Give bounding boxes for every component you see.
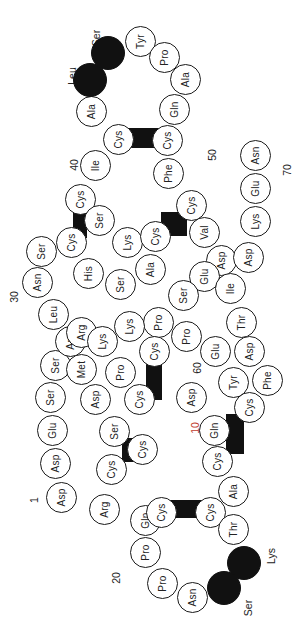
residue-ala: Ala	[76, 96, 107, 127]
residue-label: Pro	[115, 364, 126, 380]
residue-label: Phe	[262, 371, 273, 390]
residue-label: Ile	[90, 160, 101, 171]
residue-ser: Ser	[84, 205, 115, 236]
residue-ser: Ser	[105, 269, 136, 300]
residue-label: Ala	[145, 262, 156, 277]
residue-label: Asn	[250, 146, 261, 164]
residue-asp: Asp	[176, 382, 207, 413]
residue-label: Gln	[169, 101, 180, 117]
residue-pro: Pro	[147, 568, 178, 599]
residue-ala: Ala	[170, 64, 201, 95]
residue-lys: Lys	[112, 227, 143, 258]
residue-lys: Lys	[114, 311, 145, 342]
residue-label: Asp	[244, 342, 255, 360]
residue-cys: Cys	[127, 434, 158, 465]
position-number-label: 20	[110, 572, 122, 584]
residue-glu: Glu	[37, 415, 68, 446]
residue-label: Cys	[150, 227, 161, 245]
residue-ser: Ser	[26, 236, 57, 267]
residue-ser: Ser	[35, 382, 66, 413]
residue-label: Ile	[225, 283, 236, 294]
residue-asp: Asp	[234, 336, 265, 367]
residue-label: Ser	[109, 423, 120, 439]
residue-label: Asp	[50, 454, 61, 472]
residue-label: Asp	[90, 390, 101, 408]
position-number-label: 30	[8, 291, 20, 303]
position-number-label: 70	[281, 164, 293, 176]
residue-label: Asp	[186, 388, 197, 406]
residue-label: Ser	[36, 243, 47, 259]
residue-label: Ser	[45, 389, 56, 405]
residue-label: Glu	[199, 268, 210, 284]
residue-cys: Cys	[124, 384, 155, 415]
residue-asn: Asn	[177, 582, 208, 613]
residue-pro: Pro	[171, 321, 202, 352]
residue-label: Asn	[32, 273, 43, 291]
residue-pro: Pro	[143, 307, 174, 338]
residue-label: Phe	[163, 164, 174, 183]
residue-pro: Pro	[105, 357, 136, 388]
residue-label: Cys	[75, 190, 86, 208]
position-number-label: 60	[191, 362, 203, 374]
residue-thr: Thr	[226, 307, 257, 338]
residue-ser	[207, 571, 241, 605]
residue-ser: Ser	[99, 416, 130, 447]
residue-gln: Gln	[159, 94, 190, 125]
residue-label: Cys	[149, 342, 160, 360]
residue-ile: Ile	[80, 150, 111, 181]
residue-label: Tyr	[135, 34, 146, 49]
residue-label: Glu	[250, 180, 261, 196]
residue-ser: Ser	[168, 280, 199, 311]
residue-phe: Phe	[252, 365, 283, 396]
residue-label: Lys	[124, 318, 135, 334]
residue-label: Glu	[47, 422, 58, 438]
residue-label: Cys	[66, 233, 77, 251]
residue-label: Ser	[50, 357, 61, 373]
residue-asn: Asn	[240, 140, 271, 171]
residue-asp: Asp	[80, 384, 111, 415]
residue-label: Asn	[187, 588, 198, 606]
residue-label: Asp	[56, 488, 67, 506]
residue-ser	[91, 36, 125, 70]
residue-label: Cys	[162, 131, 173, 149]
residue-lys: Lys	[87, 326, 118, 357]
residue-label: Ser	[115, 276, 126, 292]
residue-cys: Cys	[139, 336, 170, 367]
residue-cys: Cys	[146, 497, 177, 528]
residue-cys: Cys	[152, 125, 183, 156]
position-number-label: 50	[206, 149, 218, 161]
residue-thr: Thr	[218, 514, 249, 545]
residue-asp: Asp	[46, 482, 77, 513]
residue-ala: Ala	[135, 254, 166, 285]
residue-label: Arg	[76, 324, 87, 340]
residue-label: Cys	[113, 130, 124, 148]
residue-asn: Asn	[22, 267, 53, 298]
residue-label: Cys	[134, 390, 145, 408]
position-number-label: 40	[68, 159, 80, 171]
residue-label: Thr	[228, 522, 239, 538]
residue-cys: Cys	[56, 227, 87, 258]
residue-asp: Asp	[233, 242, 264, 273]
residue-glu: Glu	[240, 173, 271, 204]
dark-residue-label: Ser	[242, 600, 254, 616]
position-number-label: 1	[28, 497, 40, 503]
residue-label: Gln	[209, 422, 220, 438]
residue-lys: Lys	[240, 206, 271, 237]
residue-met: Met	[66, 354, 97, 385]
residue-arg: Arg	[89, 494, 120, 525]
residue-phe: Phe	[153, 158, 184, 189]
residue-asp: Asp	[40, 448, 71, 479]
residue-cys: Cys	[140, 221, 171, 252]
residue-label: Arg	[99, 501, 110, 517]
residue-label: His	[83, 266, 94, 281]
residue-label: Pro	[181, 328, 192, 344]
residue-label: Leu	[48, 306, 59, 324]
residue-ile: Ile	[215, 273, 246, 304]
residue-label: Cys	[212, 452, 223, 470]
dark-residue-label: Lys	[265, 548, 277, 564]
residue-label: Cys	[106, 460, 117, 478]
residue-val: Val	[189, 217, 220, 248]
residue-label: Val	[199, 225, 210, 240]
residue-label: Ser	[178, 287, 189, 303]
residue-his: His	[73, 258, 104, 289]
